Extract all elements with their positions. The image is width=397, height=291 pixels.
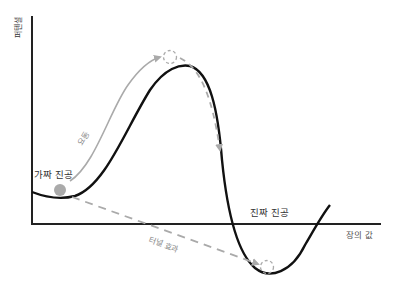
fluctuation-arrow: [70, 57, 160, 181]
false-vacuum-ball: [54, 184, 66, 196]
x-axis-label: 장의 값: [346, 230, 373, 240]
y-axis-label: 퍼텐셜: [13, 17, 23, 38]
excited-state-circle: [164, 51, 177, 64]
false-vacuum-label: 가짜 진공: [34, 169, 73, 180]
fluctuation-label: 요동: [76, 130, 91, 147]
potential-curve: [32, 66, 330, 274]
vacuum-decay-diagram: 퍼텐셜 가짜 진공 요동 진짜 진공 장의 값 터널 효과: [0, 0, 397, 291]
true-vacuum-label: 진짜 진공: [250, 207, 289, 218]
tunneling-label: 터널 효과: [147, 235, 180, 254]
tunneling-arrow: [72, 197, 258, 264]
